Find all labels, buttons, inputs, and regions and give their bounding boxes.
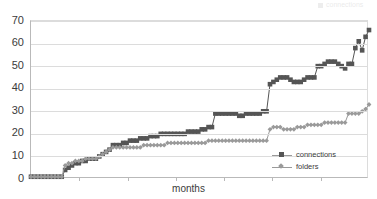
y-axis-tick-label: 20	[0, 127, 24, 138]
y-axis-tick-label: 40	[0, 82, 24, 93]
square-marker-icon	[312, 75, 317, 80]
gridline	[31, 21, 367, 22]
square-marker-icon	[210, 125, 215, 130]
square-marker-icon	[279, 152, 284, 157]
x-axis-title: months	[0, 183, 377, 194]
square-marker-icon	[360, 48, 365, 53]
x-axis-tick	[321, 177, 322, 181]
gridline	[31, 44, 367, 45]
legend-item-connections: connections	[272, 149, 364, 161]
square-marker-icon	[318, 3, 323, 8]
legend-line-connections	[272, 155, 292, 156]
diamond-marker-icon	[278, 163, 284, 169]
square-marker-icon	[367, 28, 372, 33]
gridline	[31, 66, 367, 67]
y-axis-tick-label: 70	[0, 15, 24, 26]
cropped-legend-label: connections	[326, 1, 363, 8]
x-axis-tick	[272, 177, 273, 181]
legend-item-folders: folders	[272, 161, 364, 173]
legend-label-folders: folders	[296, 161, 319, 173]
cropped-legend-fragment: connections	[318, 1, 374, 10]
y-axis-tick-label: 10	[0, 150, 24, 161]
y-axis-tick-label: 0	[0, 173, 24, 184]
chart-legend: connections folders	[272, 149, 364, 175]
diamond-marker-icon	[264, 138, 269, 143]
y-axis-tick-label: 60	[0, 37, 24, 48]
x-axis-tick	[176, 177, 177, 181]
diamond-marker-icon	[343, 120, 348, 125]
gridline	[31, 134, 367, 135]
y-axis-tick-labels: 706050403020100	[0, 20, 28, 178]
legend-label-connections: connections	[296, 149, 336, 161]
x-axis-tick	[79, 177, 80, 181]
chart-screenshot: connections 706050403020100 months conne…	[0, 0, 377, 199]
y-axis-tick-label: 50	[0, 60, 24, 71]
gridline	[31, 111, 367, 112]
x-axis-tick	[224, 177, 225, 181]
square-marker-icon	[353, 46, 358, 51]
square-marker-icon	[363, 35, 368, 40]
legend-line-folders	[272, 167, 292, 168]
x-axis-tick	[128, 177, 129, 181]
y-axis-tick-label: 30	[0, 105, 24, 116]
gridline	[31, 89, 367, 90]
